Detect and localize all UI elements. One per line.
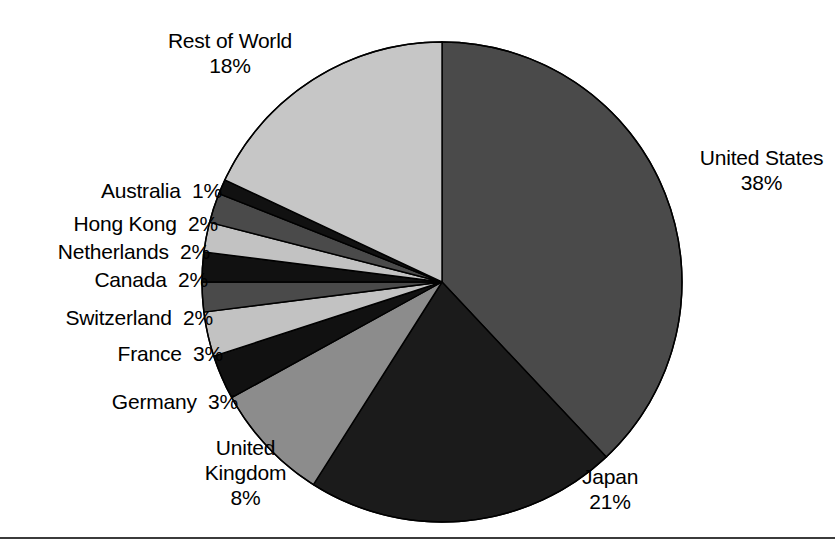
pie-label-line: France 3% (0, 341, 223, 366)
pie-label-line: Rest of World (135, 28, 325, 53)
pie-label-rest-of-world: Rest of World18% (135, 28, 325, 78)
pie-label-canada: Canada 2% (0, 267, 208, 292)
pie-label-line: Switzerland 2% (0, 305, 213, 330)
pie-label-japan: Japan21% (549, 464, 671, 514)
pie-label-line: 21% (549, 489, 671, 514)
pie-label-line: Hong Kong 2% (0, 211, 218, 236)
baseline-rule (0, 537, 835, 539)
pie-label-united-kingdom: UnitedKingdom8% (163, 435, 328, 510)
pie-label-line: Germany 3% (0, 389, 238, 414)
pie-label-line: Canada 2% (0, 267, 208, 292)
pie-label-hong-kong: Hong Kong 2% (0, 211, 218, 236)
pie-label-line: United States (688, 145, 835, 170)
pie-label-line: 38% (688, 170, 835, 195)
pie-label-line: 18% (135, 53, 325, 78)
pie-label-line: Netherlands 2% (0, 239, 210, 264)
pie-label-australia: Australia 1% (0, 178, 222, 203)
pie-label-united-states: United States38% (688, 145, 835, 195)
pie-label-line: Australia 1% (0, 178, 222, 203)
pie-label-line: Kingdom (163, 460, 328, 485)
pie-label-france: France 3% (0, 341, 223, 366)
pie-label-line: United (163, 435, 328, 460)
pie-label-switzerland: Switzerland 2% (0, 305, 213, 330)
pie-label-line: 8% (163, 485, 328, 510)
pie-label-netherlands: Netherlands 2% (0, 239, 210, 264)
pie-label-germany: Germany 3% (0, 389, 238, 414)
pie-label-line: Japan (549, 464, 671, 489)
pie-chart-figure: United States 38%Japan 21%United Kingdom… (0, 0, 835, 547)
